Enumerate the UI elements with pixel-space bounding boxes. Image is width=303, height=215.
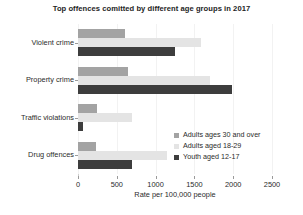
bar xyxy=(78,122,83,131)
x-axis-ticks: 05001000150020002500 xyxy=(78,176,272,190)
bar xyxy=(78,104,97,113)
x-axis-tick-label: 0 xyxy=(76,180,80,189)
legend-swatch-icon xyxy=(174,144,179,149)
x-axis-tick-label: 2500 xyxy=(264,180,280,189)
bar-chart: Top offences comitted by different age g… xyxy=(0,0,303,215)
legend-item[interactable]: Adults aged 18-29 xyxy=(174,141,261,151)
bar-group xyxy=(78,67,272,94)
y-axis-category-labels: Violent crimeProperty crimeTraffic viola… xyxy=(0,24,74,174)
chart-title: Top offences comitted by different age g… xyxy=(0,4,303,13)
legend-swatch-icon xyxy=(174,155,179,160)
bar xyxy=(78,113,132,122)
gridline xyxy=(272,24,273,174)
y-axis-label-drug-offences: Drug offences xyxy=(2,150,74,159)
x-axis-tick xyxy=(156,176,157,179)
x-axis-tick xyxy=(117,176,118,179)
bar xyxy=(78,29,125,38)
legend-item[interactable]: Adults ages 30 and over xyxy=(174,130,261,140)
x-axis-tick xyxy=(194,176,195,179)
x-axis-tick xyxy=(272,176,273,179)
bar xyxy=(78,76,210,85)
bar xyxy=(78,38,201,47)
chart-legend: Adults ages 30 and overAdults aged 18-29… xyxy=(174,130,261,163)
legend-label: Adults aged 18-29 xyxy=(183,141,241,151)
bar xyxy=(78,151,167,160)
x-axis-tick xyxy=(78,176,79,179)
x-axis-tick-label: 1500 xyxy=(186,180,202,189)
legend-swatch-icon xyxy=(174,133,179,138)
y-axis-label-violent-crime: Violent crime xyxy=(2,38,74,47)
bar xyxy=(78,85,232,94)
x-axis-title: Rate per 100,000 people xyxy=(78,190,272,199)
bar-group xyxy=(78,29,272,56)
bar xyxy=(78,160,132,169)
x-axis-tick-label: 2000 xyxy=(225,180,241,189)
y-axis-label-property-crime: Property crime xyxy=(2,75,74,84)
bar xyxy=(78,142,96,151)
bar-group xyxy=(78,104,272,131)
bar xyxy=(78,67,128,76)
legend-label: Adults ages 30 and over xyxy=(183,130,261,140)
legend-label: Youth aged 12-17 xyxy=(183,152,240,162)
bar xyxy=(78,47,175,56)
x-axis-tick xyxy=(233,176,234,179)
x-axis-tick-label: 1000 xyxy=(147,180,163,189)
y-axis-label-traffic-violations: Traffic violations xyxy=(2,113,74,122)
x-axis-tick-label: 500 xyxy=(111,180,123,189)
legend-item[interactable]: Youth aged 12-17 xyxy=(174,152,261,162)
